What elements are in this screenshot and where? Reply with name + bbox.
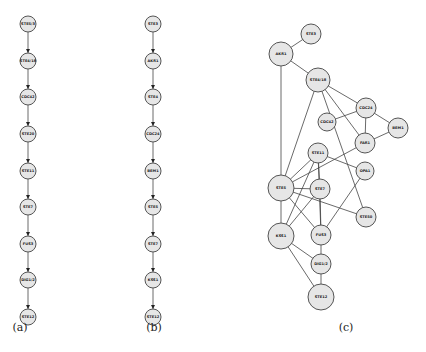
node-label: STE12 <box>22 315 35 319</box>
node-akr1: AKR1 <box>269 42 293 66</box>
node-label: STE20 <box>22 132 35 136</box>
node-ste3: STE3 <box>145 16 161 32</box>
node-label: FUS3 <box>316 233 327 237</box>
node-fus3: FUS3 <box>311 225 331 245</box>
node-opa1: OPA1 <box>356 162 374 180</box>
panel-b-directed-chain: STE3AKR1STE4CDC24BEM1STE5STE7KSS1STE12 <box>145 16 161 325</box>
node-label: KSS1 <box>148 278 159 282</box>
node-label: OPA1 <box>360 169 371 173</box>
node-ste4: STE4 <box>145 89 161 105</box>
node-label: FAR1 <box>360 141 371 145</box>
caption-b: (b) <box>146 321 162 334</box>
node-label: BEM1 <box>392 126 404 130</box>
panel-a-directed-chain: STE5/3STE4/18CDC42STE20STE11STE7FUS3DIG1… <box>20 16 37 325</box>
node-bem1: BEM1 <box>145 163 161 179</box>
node-label: STE7 <box>315 187 325 191</box>
node-bem1: BEM1 <box>388 118 408 138</box>
node-label: CDC24 <box>359 106 373 110</box>
node-ste11: STE11 <box>20 163 36 179</box>
node-label: STE11 <box>312 151 325 155</box>
node-label: CDC42 <box>21 95 35 99</box>
node-ste5-3: STE5/3 <box>20 16 36 32</box>
node-dig1-2: DIG1/2 <box>311 254 331 274</box>
node-label: DIG1/2 <box>21 278 35 282</box>
node-label: STE5 <box>276 186 286 190</box>
node-cdc42: CDC42 <box>20 89 36 105</box>
node-cdc42: CDC42 <box>318 113 336 131</box>
node-fus3: FUS3 <box>20 236 36 252</box>
edge-opa1-fus3 <box>321 171 365 235</box>
panel-c-network: STE3AKR1STE4/18CDC24CDC42BEM1FAR1STE11OP… <box>268 24 408 310</box>
node-akr1: AKR1 <box>145 53 161 69</box>
node-label: STE11 <box>22 169 35 173</box>
node-ste5: STE5 <box>268 175 294 201</box>
node-cdc24: CDC24 <box>356 98 376 118</box>
node-label: STE50 <box>360 215 373 219</box>
node-label: CDC42 <box>320 120 334 124</box>
node-label: STE7 <box>148 242 158 246</box>
node-label: STE5 <box>148 205 158 209</box>
node-label: AKR1 <box>276 52 287 56</box>
node-ste4-18: STE4/18 <box>20 53 37 69</box>
node-ste5: STE5 <box>145 199 161 215</box>
node-kss1: KSS1 <box>145 272 161 288</box>
caption-a: (a) <box>12 321 27 334</box>
node-label: STE7 <box>23 205 33 209</box>
node-ste20: STE20 <box>20 126 36 142</box>
node-ste11: STE11 <box>308 143 328 163</box>
node-ste7: STE7 <box>20 199 36 215</box>
node-label: STE12 <box>315 295 328 299</box>
node-cdc24: CDC24 <box>145 126 161 142</box>
node-far1: FAR1 <box>355 133 375 153</box>
node-ste3: STE3 <box>301 24 321 44</box>
node-ste4-18: STE4/18 <box>306 68 330 92</box>
node-label: STE4/18 <box>20 59 37 63</box>
figure-canvas: STE5/3STE4/18CDC42STE20STE11STE7FUS3DIG1… <box>0 0 426 352</box>
node-kss1: KSS1 <box>268 223 294 249</box>
node-label: KSS1 <box>276 234 287 238</box>
node-label: STE12 <box>147 315 160 319</box>
node-label: FUS3 <box>23 242 34 246</box>
node-label: STE5/3 <box>21 22 35 26</box>
node-dig1-2: DIG1/2 <box>20 272 36 288</box>
node-ste12: STE12 <box>308 284 334 310</box>
node-ste7: STE7 <box>145 236 161 252</box>
caption-c: (c) <box>339 321 354 334</box>
node-ste7: STE7 <box>310 179 330 199</box>
node-ste50: STE50 <box>356 207 376 227</box>
node-label: CDC24 <box>146 132 160 136</box>
node-label: DIG1/2 <box>314 262 328 266</box>
node-label: STE3 <box>306 32 316 36</box>
node-label: STE4 <box>148 95 158 99</box>
node-label: AKR1 <box>148 59 159 63</box>
node-label: STE3 <box>148 22 158 26</box>
edge-ste4-18-ste5 <box>281 80 318 188</box>
node-label: BEM1 <box>147 169 159 173</box>
node-label: STE4/18 <box>310 78 327 82</box>
